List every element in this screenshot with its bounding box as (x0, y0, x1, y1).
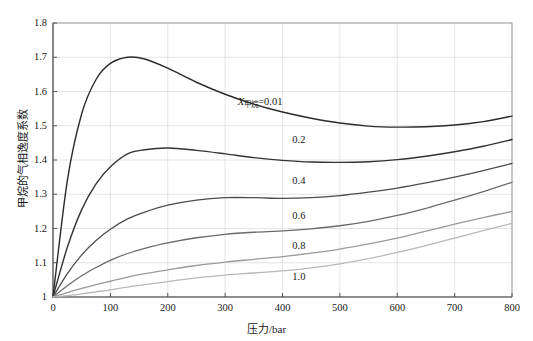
curve-label: 0.2 (165, 135, 305, 146)
x-tick-label: 600 (377, 303, 417, 314)
curve-label-subscript: 甲烷 (244, 101, 258, 110)
x-tick-label: 200 (148, 303, 188, 314)
x-tick-label: 800 (492, 303, 532, 314)
curve-label-value: =0.01 (258, 96, 282, 107)
x-tick-label: 400 (263, 303, 303, 314)
x-tick-label: 0 (33, 303, 73, 314)
curve-label: X甲烷=0.01 (143, 97, 283, 109)
chart-plot-area (0, 0, 533, 341)
curve-label: 0.6 (165, 211, 305, 222)
curve-label: 0.8 (165, 241, 305, 252)
y-axis-title: 甲烷的气相逸度系数 (14, 38, 30, 278)
x-axis-title: 压力/bar (0, 320, 533, 336)
x-tick-label: 700 (435, 303, 475, 314)
chart-figure: 11.11.21.31.41.51.61.71.8 01002003004005… (0, 0, 533, 341)
y-tick-label: 1 (9, 292, 47, 303)
x-tick-label: 300 (205, 303, 245, 314)
x-tick-label: 500 (320, 303, 360, 314)
curve-label: 0.4 (165, 176, 305, 187)
curve-label: 1.0 (165, 272, 305, 283)
y-tick-label: 1.8 (9, 18, 47, 29)
x-tick-label: 100 (90, 303, 130, 314)
